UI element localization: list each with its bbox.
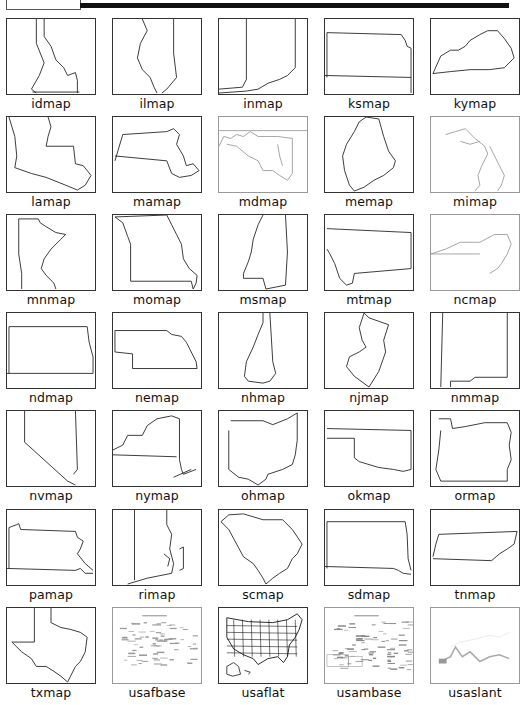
map-label: nmmap [430,390,520,405]
ne-map-image[interactable] [112,312,202,389]
map-label: idmap [6,96,96,111]
map-thumbnail-ncmap[interactable]: ncmap [430,214,522,310]
map-label: nhmap [218,390,308,405]
map-label: nvmap [6,488,96,503]
map-thumbnail-okmap[interactable]: okmap [324,410,416,506]
map-label: mimap [430,194,520,209]
map-thumbnail-nmmap[interactable]: nmmap [430,312,522,408]
pa-map-image[interactable] [6,509,96,586]
map-label: mamap [112,194,202,209]
map-thumbnail-kymap[interactable]: kymap [430,18,522,114]
map-thumbnail-mamap[interactable]: mamap [112,116,204,212]
ny-map-image[interactable] [112,410,202,487]
map-thumbnail-ohmap[interactable]: ohmap [218,410,310,506]
map-label: usambase [324,685,414,700]
map-thumbnail-mtmap[interactable]: mtmap [324,214,416,310]
header-bar [80,3,509,8]
map-thumbnail-njmap[interactable]: njmap [324,312,416,408]
map-thumbnail-tnmap[interactable]: tnmap [430,509,522,605]
map-thumbnail-ormap[interactable]: ormap [430,410,522,506]
map-label: kymap [430,96,520,111]
map-label: rimap [112,587,202,602]
map-label: njmap [324,390,414,405]
map-thumbnail-scmap[interactable]: scmap [218,509,310,605]
map-thumbnail-idmap[interactable]: idmap [6,18,98,114]
sd-map-image[interactable] [324,509,414,586]
la-map-image[interactable] [6,116,96,193]
map-thumbnail-ilmap[interactable]: ilmap [112,18,204,114]
ky-map-image[interactable] [430,18,520,95]
id-map-image[interactable] [6,18,96,95]
header-box [6,0,81,10]
map-thumbnail-mdmap[interactable]: mdmap [218,116,310,212]
il-map-image[interactable] [112,18,202,95]
nh-map-image[interactable] [218,312,308,389]
map-label: sdmap [324,587,414,602]
map-label: ilmap [112,96,202,111]
md-map-image[interactable] [218,116,308,193]
ri-map-image[interactable] [112,509,202,586]
in-map-image[interactable] [218,18,308,95]
map-thumbnail-ndmap[interactable]: ndmap [6,312,98,408]
nd-map-image[interactable] [6,312,96,389]
nc-map-image[interactable] [430,214,520,291]
ks-map-image[interactable] [324,18,414,95]
map-thumbnail-nvmap[interactable]: nvmap [6,410,98,506]
nm-map-image[interactable] [430,312,520,389]
map-label: ncmap [430,292,520,307]
me-map-image[interactable] [324,116,414,193]
mi-map-image[interactable] [430,116,520,193]
map-label: nymap [112,488,202,503]
usambase-map-image[interactable] [324,607,414,684]
map-label: pamap [6,587,96,602]
map-thumbnail-usaflat[interactable]: usaflat [218,607,310,703]
map-thumbnail-msmap[interactable]: msmap [218,214,310,310]
map-thumbnail-mimap[interactable]: mimap [430,116,522,212]
map-thumbnail-pamap[interactable]: pamap [6,509,98,605]
map-thumbnail-ksmap[interactable]: ksmap [324,18,416,114]
usafbase-map-image[interactable] [112,607,202,684]
ok-map-image[interactable] [324,410,414,487]
map-label: mnmap [6,292,96,307]
map-thumbnail-nemap[interactable]: nemap [112,312,204,408]
map-thumbnail-mnmap[interactable]: mnmap [6,214,98,310]
ma-map-image[interactable] [112,116,202,193]
oh-map-image[interactable] [218,410,308,487]
mo-map-image[interactable] [112,214,202,291]
map-label: memap [324,194,414,209]
usaslant-map-image[interactable] [430,607,520,684]
tx-map-image[interactable] [6,607,96,684]
nj-map-image[interactable] [324,312,414,389]
map-label: inmap [218,96,308,111]
map-thumbnail-rimap[interactable]: rimap [112,509,204,605]
map-label: okmap [324,488,414,503]
mn-map-image[interactable] [6,214,96,291]
map-label: usaslant [430,685,520,700]
sc-map-image[interactable] [218,509,308,586]
tn-map-image[interactable] [430,509,520,586]
map-label: tnmap [430,587,520,602]
map-label: ndmap [6,390,96,405]
map-label: ksmap [324,96,414,111]
map-label: mtmap [324,292,414,307]
map-thumbnail-lamap[interactable]: lamap [6,116,98,212]
nv-map-image[interactable] [6,410,96,487]
map-thumbnail-sdmap[interactable]: sdmap [324,509,416,605]
map-thumbnail-usambase[interactable]: usambase [324,607,416,703]
map-thumbnail-memap[interactable]: memap [324,116,416,212]
or-map-image[interactable] [430,410,520,487]
map-label: ormap [430,488,520,503]
map-label: momap [112,292,202,307]
map-thumbnail-usaslant[interactable]: usaslant [430,607,522,703]
map-label: txmap [6,685,96,700]
map-thumbnail-momap[interactable]: momap [112,214,204,310]
ms-map-image[interactable] [218,214,308,291]
mt-map-image[interactable] [324,214,414,291]
map-thumbnail-txmap[interactable]: txmap [6,607,98,703]
map-label: usaflat [218,685,308,700]
map-thumbnail-nymap[interactable]: nymap [112,410,204,506]
usaflat-map-image[interactable] [218,607,308,684]
map-thumbnail-inmap[interactable]: inmap [218,18,310,114]
map-thumbnail-usafbase[interactable]: usafbase [112,607,204,703]
map-thumbnail-nhmap[interactable]: nhmap [218,312,310,408]
